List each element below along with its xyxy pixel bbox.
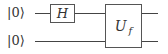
qubit-0-wire-input: [35, 13, 50, 14]
qubit-1-wire-input: [35, 41, 105, 42]
quantum-circuit: |0⟩ |0⟩ H Uf: [0, 0, 168, 54]
oracle-gate-label: U: [115, 18, 127, 34]
oracle-gate-uf: Uf: [105, 4, 142, 48]
qubit-0-wire-output: [142, 13, 158, 14]
oracle-gate-subscript: f: [129, 25, 133, 36]
qubit-1-wire-output: [142, 41, 158, 42]
qubit-0-wire-middle: [75, 13, 105, 14]
hadamard-gate-label: H: [57, 6, 68, 21]
hadamard-gate: H: [50, 4, 75, 23]
qubit-0-label: |0⟩: [7, 6, 25, 20]
qubit-1-label: |0⟩: [7, 34, 25, 48]
